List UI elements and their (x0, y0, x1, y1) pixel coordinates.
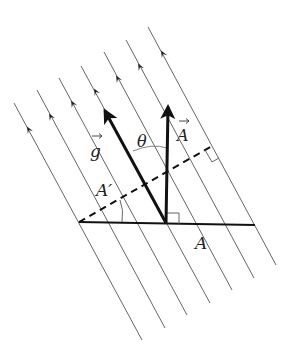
vector-arrow-icon (92, 134, 102, 139)
angle-arc-left (120, 200, 123, 222)
svg-text:g: g (90, 141, 101, 161)
A-area-label: A (193, 233, 207, 253)
field-arrow-icon (138, 63, 144, 71)
field-arrow-icon (71, 100, 77, 108)
right-angle-marker-vertex (167, 213, 179, 224)
field-line-arrows (27, 50, 167, 134)
field-line (126, 40, 254, 278)
A-vector-label: A (175, 119, 189, 146)
flux-diagram: g θ A A′ A (0, 0, 289, 356)
A-vector (166, 107, 168, 223)
svg-text:A: A (175, 126, 189, 145)
field-arrow-icon (49, 113, 55, 121)
g-vector-label: g (90, 134, 102, 162)
A-prime-label: A′ (94, 180, 112, 200)
field-arrow-icon (116, 75, 122, 83)
theta-label: θ (137, 132, 147, 151)
field-line (14, 103, 142, 340)
g-vector (105, 111, 166, 223)
vector-arrow-icon (179, 119, 189, 124)
